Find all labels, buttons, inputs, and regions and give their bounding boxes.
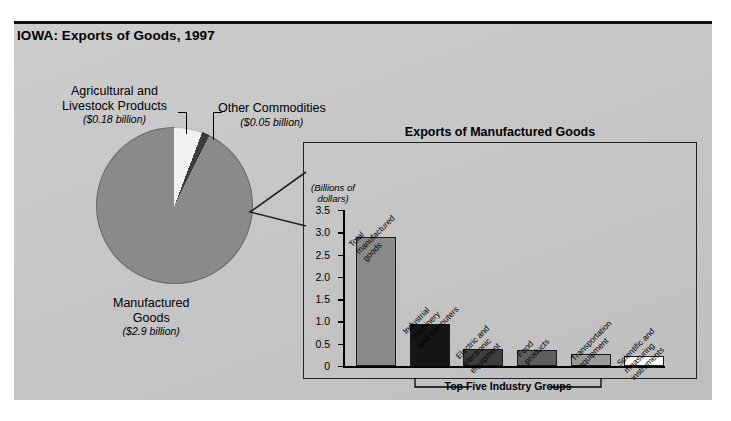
- y-axis-tick: 2.0: [338, 277, 343, 278]
- y-axis-tick-label: 3.0: [315, 226, 330, 238]
- pie-value-agricultural: ($0.18 billion): [62, 113, 167, 125]
- pie-label-other-line1: Other Commodities: [218, 101, 326, 115]
- pie-value-manufactured: ($2.9 billion): [113, 325, 189, 337]
- y-axis-units-line1: (Billions of: [311, 182, 355, 193]
- pie-chart: [96, 127, 253, 284]
- y-axis-tick: 1.5: [338, 299, 343, 300]
- leader-line-agricultural-vertical: [186, 112, 187, 134]
- y-axis-tick-label: 2.0: [315, 271, 330, 283]
- y-axis-tick: 1.0: [338, 321, 343, 322]
- y-axis-tick: 0: [338, 366, 343, 367]
- y-axis-units-line2: dollars): [317, 193, 348, 204]
- page-title: IOWA: Exports of Goods, 1997: [17, 28, 215, 43]
- y-axis-units-label: (Billions of dollars): [296, 183, 370, 205]
- pie-label-manufactured: Manufactured Goods ($2.9 billion): [113, 296, 189, 337]
- y-axis-tick-label: 2.5: [315, 249, 330, 261]
- pie-label-manufactured-line2: Goods: [133, 311, 170, 325]
- y-axis-line: [343, 210, 345, 366]
- pie-label-other-commodities: Other Commodities ($0.05 billion): [218, 101, 326, 128]
- pie-label-agricultural: Agricultural and Livestock Products ($0.…: [62, 84, 167, 125]
- y-axis-tick-label: 3.5: [315, 204, 330, 216]
- pie-slices: [96, 127, 253, 284]
- y-axis-tick-label: 1.0: [315, 315, 330, 327]
- leader-line-other-vertical: [213, 112, 214, 140]
- y-axis-tick: 3.5: [338, 210, 343, 211]
- pie-label-agricultural-line1: Agricultural and: [71, 84, 158, 98]
- x-axis-line: [343, 366, 665, 368]
- leader-line-agricultural-elbow: [178, 112, 187, 113]
- title-rule: [14, 21, 712, 24]
- figure-canvas: IOWA: Exports of Goods, 1997 Agricultura…: [0, 0, 731, 421]
- pie-label-manufactured-line1: Manufactured: [113, 296, 189, 310]
- y-axis-tick: 0.5: [338, 344, 343, 345]
- y-axis-tick-label: 0: [324, 360, 330, 372]
- bar-chart-plot: (Billions of dollars) 00.51.01.52.02.53.…: [343, 210, 673, 366]
- y-axis-tick: 3.0: [338, 232, 343, 233]
- y-axis-tick: 2.5: [338, 255, 343, 256]
- y-axis-tick-label: 1.5: [315, 293, 330, 305]
- bar-chart-title: Exports of Manufactured Goods: [303, 125, 697, 139]
- bracket-label: Top Five Industry Groups: [343, 380, 673, 392]
- y-axis-tick-label: 0.5: [315, 338, 330, 350]
- pie-label-agricultural-line2: Livestock Products: [62, 99, 167, 113]
